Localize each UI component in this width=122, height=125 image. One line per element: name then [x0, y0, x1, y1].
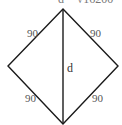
- label-diagonal-d: d: [67, 62, 73, 74]
- label-top-right-side: 90: [90, 28, 101, 39]
- label-bottom-left-side: 90: [25, 93, 36, 104]
- label-top-left-side: 90: [27, 28, 38, 39]
- label-bottom-right-side: 90: [92, 93, 103, 104]
- rhombus-diagram: [0, 0, 122, 125]
